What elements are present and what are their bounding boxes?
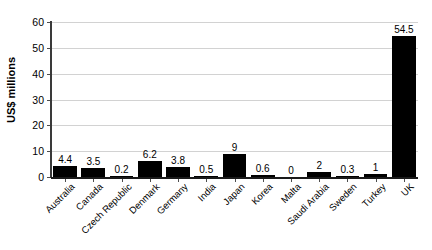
x-axis-category-label: Sweden — [327, 181, 359, 213]
bar-slot: 0.3 — [333, 22, 361, 177]
bar[interactable] — [336, 176, 360, 177]
y-axis-title-text: US$ millions — [5, 57, 17, 123]
bar-slot: 2 — [305, 22, 333, 177]
bar[interactable] — [81, 168, 105, 177]
bar-value-label: 3.5 — [86, 156, 100, 167]
bar[interactable] — [138, 161, 162, 177]
bar-slot: 9 — [220, 22, 248, 177]
bar-slot: 6.2 — [136, 22, 164, 177]
bar-value-label: 0.6 — [256, 163, 270, 174]
x-axis-category-label: Japan — [220, 181, 246, 207]
y-axis-tick-label: 10 — [32, 145, 44, 157]
bar[interactable] — [166, 167, 190, 177]
bar-value-label: 54.5 — [394, 24, 413, 35]
x-axis-category-label: Turkey — [359, 181, 387, 209]
bar-slot: 3.8 — [164, 22, 192, 177]
x-axis-category-label: Czech Republic — [79, 181, 134, 236]
bar-slot: 4.4 — [51, 22, 79, 177]
bar-value-label: 6.2 — [143, 149, 157, 160]
x-axis-tick-mark — [376, 179, 377, 182]
x-axis-tick-mark — [263, 179, 264, 182]
bar-slot: 0.2 — [107, 22, 135, 177]
y-axis-tick-label: 30 — [32, 94, 44, 106]
x-axis-tick-mark — [122, 179, 123, 182]
x-axis-category-label: Australia — [43, 181, 77, 215]
x-axis-category-label: Malta — [279, 181, 303, 205]
bar-value-label: 0.3 — [340, 164, 354, 175]
bar-chart: US$ millions 0102030405060 4.43.50.26.23… — [0, 0, 432, 250]
bar[interactable] — [251, 175, 275, 177]
x-axis-category-label: India — [196, 181, 218, 203]
bar-slot: 3.5 — [79, 22, 107, 177]
x-axis-tick-mark — [235, 179, 236, 182]
bar-value-label: 0.2 — [115, 164, 129, 175]
x-axis-tick-mark — [178, 179, 179, 182]
x-axis-tick-mark — [347, 179, 348, 182]
x-axis-category-label: UK — [399, 181, 416, 198]
x-axis-tick-mark — [65, 179, 66, 182]
y-axis-tick-labels: 0102030405060 — [18, 22, 44, 177]
y-axis-tick-label: 60 — [32, 16, 44, 28]
bar-value-label: 0.5 — [199, 164, 213, 175]
bar-slot: 54.5 — [390, 22, 418, 177]
x-axis-tick-mark — [319, 179, 320, 182]
bar-value-label: 2 — [316, 160, 322, 171]
bar[interactable] — [194, 176, 218, 177]
y-axis-tick-label: 40 — [32, 68, 44, 80]
x-axis-category-labels: AustraliaCanadaCzech RepublicDenmarkGerm… — [51, 179, 418, 250]
x-axis-tick-mark — [404, 179, 405, 182]
bar[interactable] — [110, 176, 134, 177]
bar-value-label: 9 — [232, 142, 238, 153]
x-axis-tick-mark — [93, 179, 94, 182]
bar-slot: 0.5 — [192, 22, 220, 177]
bar-slot: 1 — [362, 22, 390, 177]
x-axis-category-label: Korea — [249, 181, 275, 207]
y-axis-tick-label: 20 — [32, 119, 44, 131]
bar-value-label: 3.8 — [171, 155, 185, 166]
y-axis-tick-label: 50 — [32, 42, 44, 54]
x-axis-tick-mark — [291, 179, 292, 182]
bar-slot: 0 — [277, 22, 305, 177]
bar[interactable] — [392, 36, 416, 177]
bars-layer: 4.43.50.26.23.80.590.6020.3154.5 — [51, 22, 418, 177]
y-axis-tick-label: 0 — [38, 171, 44, 183]
bar[interactable] — [223, 154, 247, 177]
bar-value-label: 0 — [288, 165, 294, 176]
x-axis-tick-mark — [206, 179, 207, 182]
bar[interactable] — [53, 166, 77, 177]
bar-value-label: 4.4 — [58, 154, 72, 165]
bar-slot: 0.6 — [249, 22, 277, 177]
bar-value-label: 1 — [373, 162, 379, 173]
x-axis-tick-mark — [150, 179, 151, 182]
bar[interactable] — [307, 172, 331, 177]
bar[interactable] — [364, 174, 388, 177]
